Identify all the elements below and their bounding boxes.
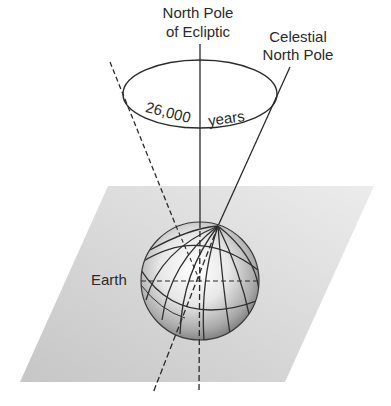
diagram-canvas: North Pole of Ecliptic Celestial North P… — [0, 0, 391, 406]
label-period-unit: years — [207, 107, 246, 129]
label-ecliptic-pole-2: of Ecliptic — [166, 23, 231, 40]
label-period-number: 26,000 — [144, 98, 193, 126]
label-ecliptic-pole-1: North Pole — [163, 4, 234, 21]
label-celestial-pole-2: North Pole — [263, 46, 334, 63]
label-celestial-pole-1: Celestial — [269, 28, 327, 45]
label-earth: Earth — [91, 271, 127, 288]
precession-diagram: North Pole of Ecliptic Celestial North P… — [0, 0, 391, 406]
